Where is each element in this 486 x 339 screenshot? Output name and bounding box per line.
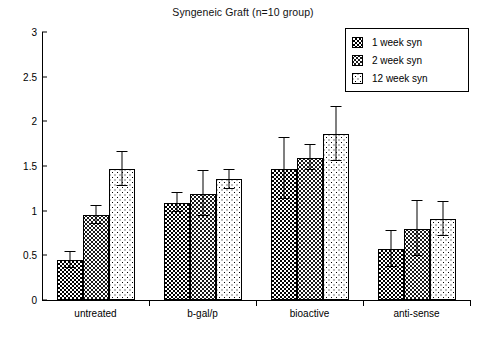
bar-with-error [190,194,216,300]
chart-title: Syngeneic Graft (n=10 group) [0,6,486,18]
y-axis-tick-label: 2 [0,116,42,127]
bar-group [42,32,149,300]
x-axis-group-separator [256,300,257,306]
bar-with-error [164,203,190,300]
bar-with-error [297,158,323,300]
error-bar-cap-top [278,137,289,138]
bar-with-error [83,215,109,300]
bar-group-bars [42,32,149,300]
legend-swatch-12-week-syn [352,73,363,84]
bar-with-error [109,169,135,300]
bar-anti-sense-1-week-syn [378,249,404,300]
bar-group [149,32,256,300]
error-bar-cap-top [385,230,396,231]
bar-bioactive-2-week-syn [297,158,323,300]
bar-group-bars [149,32,256,300]
legend-label-1-week-syn: 1 week syn [372,37,422,48]
error-bar-cap-top [197,170,208,171]
y-axis-tick-label: 3 [0,27,42,38]
legend-item: 1 week syn [352,33,462,51]
x-axis-end-tick [470,300,471,306]
bar-with-error [430,219,456,300]
bar-anti-sense-12-week-syn [430,219,456,300]
error-bar-cap-top [330,106,341,107]
y-axis-tick-label: 1.5 [0,161,42,172]
legend-swatch-2-week-syn [352,55,363,66]
bar-anti-sense-2-week-syn [404,229,430,300]
error-bar-cap-top [437,201,448,202]
legend-item: 12 week syn [352,69,462,87]
bar-untreated-12-week-syn [109,169,135,300]
x-axis-label-untreated: untreated [74,308,116,319]
bar-with-error [271,169,297,300]
error-bar-cap-top [90,205,101,206]
error-bar-cap-top [304,144,315,145]
legend-item: 2 week syn [352,51,462,69]
bar-b-gal-p-2-week-syn [190,194,216,300]
x-axis-group-separator [363,300,364,306]
bar-with-error [57,260,83,300]
bar-untreated-2-week-syn [83,215,109,300]
bar-bioactive-1-week-syn [271,169,297,300]
chart-legend: 1 week syn 2 week syn 12 week syn [345,28,469,92]
bar-with-error [323,134,349,300]
error-bar-cap-top [64,251,75,252]
error-bar-cap-top [223,169,234,170]
bar-with-error [216,179,242,300]
x-axis-label-bioactive: bioactive [290,308,329,319]
y-axis-tick-label: 0 [0,295,42,306]
bar-b-gal-p-12-week-syn [216,179,242,300]
x-axis-group-separator [149,300,150,306]
bar-chart: Syngeneic Graft (n=10 group) 00.511.522.… [0,0,486,339]
error-bar-cap-top [171,192,182,193]
bar-with-error [404,229,430,300]
y-axis-tick-label: 0.5 [0,250,42,261]
y-axis-tick-label: 2.5 [0,71,42,82]
x-axis-label-b-gal-p: b-gal/p [187,308,218,319]
bar-b-gal-p-1-week-syn [164,203,190,300]
legend-label-2-week-syn: 2 week syn [372,55,422,66]
legend-label-12-week-syn: 12 week syn [372,73,428,84]
y-axis-tick-label: 1 [0,205,42,216]
bar-bioactive-12-week-syn [323,134,349,300]
bar-untreated-1-week-syn [57,260,83,300]
error-bar-cap-top [411,200,422,201]
legend-swatch-1-week-syn [352,37,363,48]
bar-with-error [378,249,404,300]
error-bar-cap-top [116,151,127,152]
x-axis-label-anti-sense: anti-sense [393,308,439,319]
